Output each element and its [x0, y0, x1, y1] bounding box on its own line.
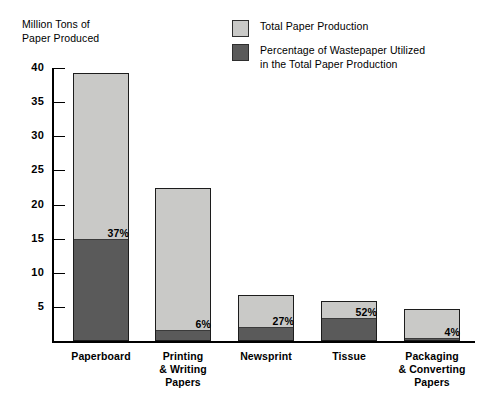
- y-tick-mark: [54, 239, 65, 240]
- bar-percent-label-1: 6%: [155, 318, 211, 330]
- y-tick-mark: [54, 136, 65, 137]
- bar-waste-segment-1[interactable]: [156, 330, 210, 340]
- y-tick-label: 30: [18, 129, 44, 141]
- x-axis-line: [52, 341, 475, 343]
- y-tick-label: 15: [18, 232, 44, 244]
- y-tick-label: 5: [18, 300, 44, 312]
- bar-waste-segment-3[interactable]: [322, 318, 376, 340]
- y-tick-label: 35: [18, 95, 44, 107]
- bar-waste-segment-0[interactable]: [74, 239, 128, 340]
- bar-waste-segment-2[interactable]: [239, 327, 293, 340]
- legend-label-total-paper-production: Total Paper Production: [260, 20, 368, 34]
- y-tick-label: 20: [18, 198, 44, 210]
- chart-legend: Total Paper Production Percentage of Was…: [232, 20, 425, 78]
- legend-item-total-paper-production: Total Paper Production: [232, 20, 425, 37]
- category-label-4: Packaging & Converting Papers: [390, 350, 474, 389]
- y-tick-mark: [54, 307, 65, 308]
- bar-percent-label-3: 52%: [321, 306, 377, 318]
- chart-container: Million Tons of Paper Produced Total Pap…: [0, 0, 489, 402]
- y-tick-label: 10: [18, 266, 44, 278]
- y-tick-label: 25: [18, 163, 44, 175]
- category-label-0: Paperboard: [59, 350, 143, 363]
- bar-percent-label-0: 37%: [73, 227, 129, 239]
- bar-waste-segment-4[interactable]: [405, 338, 459, 340]
- bar-percent-label-4: 4%: [404, 326, 460, 338]
- category-label-3: Tissue: [307, 350, 391, 363]
- y-tick-mark: [54, 170, 65, 171]
- y-tick-mark: [54, 68, 65, 69]
- y-axis-spine: [52, 68, 54, 343]
- legend-swatch-total-paper-production: [232, 20, 249, 37]
- y-tick-mark: [54, 205, 65, 206]
- y-tick-mark: [54, 273, 65, 274]
- y-tick-label: 40: [18, 61, 44, 73]
- category-label-2: Newsprint: [224, 350, 308, 363]
- legend-swatch-wastepaper-utilized: [232, 44, 249, 61]
- category-label-1: Printing & Writing Papers: [141, 350, 225, 389]
- y-axis-title: Million Tons of Paper Produced: [22, 18, 99, 45]
- legend-item-wastepaper-utilized: Percentage of Wastepaper Utilized in the…: [232, 44, 425, 71]
- bar-percent-label-2: 27%: [238, 315, 294, 327]
- legend-label-wastepaper-utilized: Percentage of Wastepaper Utilized in the…: [260, 44, 425, 71]
- y-tick-mark: [54, 102, 65, 103]
- bar-total-0[interactable]: [73, 73, 129, 341]
